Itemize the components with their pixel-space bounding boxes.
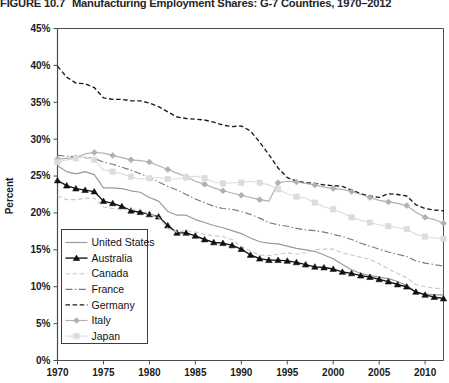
data-point-marker bbox=[404, 226, 409, 231]
x-tick-label: 1995 bbox=[276, 367, 299, 378]
data-point-marker bbox=[385, 199, 391, 205]
y-tick-label: 10% bbox=[30, 281, 50, 292]
data-point-marker bbox=[220, 188, 226, 194]
y-tick-label: 5% bbox=[36, 318, 51, 329]
data-point-marker bbox=[331, 207, 336, 212]
data-point-marker bbox=[441, 220, 447, 226]
data-point-marker bbox=[247, 252, 253, 257]
data-point-marker bbox=[275, 187, 280, 192]
data-point-marker bbox=[422, 214, 428, 220]
data-point-marker bbox=[63, 183, 69, 189]
data-point-marker bbox=[367, 220, 372, 225]
x-tick-label: 1980 bbox=[138, 367, 161, 378]
chart-legend: United StatesAustraliaCanadaFranceGerman… bbox=[62, 230, 155, 344]
x-tick-label: 1985 bbox=[184, 367, 207, 378]
data-point-marker bbox=[54, 177, 60, 183]
y-tick-label: 0% bbox=[36, 355, 51, 366]
data-point-marker bbox=[92, 157, 97, 162]
legend-marker bbox=[74, 333, 79, 338]
data-point-marker bbox=[165, 176, 170, 181]
data-point-marker bbox=[147, 176, 152, 181]
x-tick-label: 2000 bbox=[322, 367, 345, 378]
data-point-marker bbox=[239, 180, 244, 185]
data-point-marker bbox=[312, 182, 318, 188]
series-japan bbox=[55, 156, 446, 242]
data-point-marker bbox=[312, 200, 317, 205]
y-tick-label: 40% bbox=[30, 60, 50, 71]
series-germany bbox=[58, 66, 444, 211]
x-tick-label: 1975 bbox=[92, 367, 115, 378]
y-tick-label: 35% bbox=[30, 97, 50, 108]
legend-label: Australia bbox=[92, 252, 133, 264]
data-point-marker bbox=[202, 181, 208, 187]
legend-label: France bbox=[92, 283, 125, 295]
legend-label: Japan bbox=[92, 330, 121, 342]
data-point-marker bbox=[238, 192, 244, 198]
data-point-marker bbox=[275, 180, 281, 186]
data-point-marker bbox=[202, 176, 207, 181]
data-point-marker bbox=[73, 156, 78, 161]
x-tick-label: 2005 bbox=[368, 367, 391, 378]
data-point-marker bbox=[422, 234, 427, 239]
y-tick-label: 20% bbox=[30, 207, 50, 218]
data-point-marker bbox=[183, 175, 188, 180]
data-point-marker bbox=[349, 215, 354, 220]
manufacturing-employment-line-chart: 0%5%10%15%20%25%30%35%40%45% 19701975198… bbox=[0, 0, 449, 383]
legend-label: Italy bbox=[92, 314, 112, 326]
x-tick-label: 1970 bbox=[46, 367, 69, 378]
data-point-marker bbox=[165, 166, 171, 172]
figure-container: FIGURE 10.7Manufacturing Employment Shar… bbox=[0, 0, 449, 383]
y-axis-title: Percent bbox=[4, 177, 15, 214]
data-point-marker bbox=[367, 194, 373, 200]
data-point-marker bbox=[330, 186, 336, 192]
data-point-marker bbox=[257, 180, 262, 185]
data-point-marker bbox=[110, 152, 116, 158]
data-point-marker bbox=[294, 194, 299, 199]
y-tick-label: 45% bbox=[30, 23, 50, 34]
data-point-marker bbox=[128, 157, 134, 163]
data-point-marker bbox=[441, 236, 446, 241]
data-point-marker bbox=[55, 159, 60, 164]
data-point-marker bbox=[257, 197, 263, 203]
legend-label: Canada bbox=[92, 267, 129, 279]
data-point-marker bbox=[110, 169, 115, 174]
data-point-marker bbox=[128, 174, 133, 179]
data-point-marker bbox=[220, 181, 225, 186]
legend-label: United States bbox=[92, 236, 155, 248]
data-point-marker bbox=[91, 149, 97, 155]
data-point-marker bbox=[386, 224, 391, 229]
y-tick-label: 30% bbox=[30, 134, 50, 145]
y-axis-ticks: 0%5%10%15%20%25%30%35%40%45% bbox=[30, 23, 57, 366]
x-tick-label: 2010 bbox=[414, 367, 437, 378]
legend-label: Germany bbox=[92, 299, 136, 311]
x-axis-ticks: 197019751980198519901995200020052010 bbox=[46, 361, 436, 378]
y-tick-label: 15% bbox=[30, 244, 50, 255]
y-tick-label: 25% bbox=[30, 170, 50, 181]
x-tick-label: 1990 bbox=[230, 367, 253, 378]
data-point-marker bbox=[146, 159, 152, 165]
